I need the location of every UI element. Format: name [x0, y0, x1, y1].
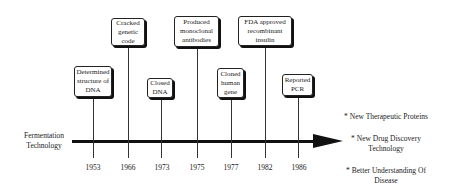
event-box-1953: Determined structure of DNA — [74, 66, 112, 97]
connector-1975 — [197, 47, 198, 158]
year-label: 1973 — [155, 163, 170, 172]
year-label: 1953 — [86, 163, 101, 172]
connector-1986 — [298, 96, 299, 158]
event-box-1982: FDA approved recombinant insulin — [238, 16, 292, 46]
outcome-therapeutic-proteins: * New Therapeutic Proteins — [344, 112, 428, 122]
connector-1977 — [231, 98, 232, 158]
timeline-axis — [72, 140, 316, 143]
event-box-1975: Produced monoclonal antibodies — [174, 16, 219, 47]
year-label: 1975 — [190, 163, 205, 172]
connector-1973 — [161, 98, 162, 158]
event-box-1986: Reported PCR — [282, 74, 313, 96]
event-box-1966: Cracked genetic code — [111, 18, 145, 46]
connector-1953 — [93, 96, 94, 158]
year-label: 1966 — [121, 163, 136, 172]
outcome-drug-discovery: * New Drug Discovery Technology — [346, 134, 426, 154]
arrow-right-icon — [313, 134, 343, 148]
connector-1982 — [265, 46, 266, 158]
year-label: 1986 — [292, 163, 307, 172]
event-box-1973: Closed DNA — [147, 78, 173, 98]
outcome-understanding-disease: * Better Understanding Of Disease — [344, 166, 428, 186]
event-box-1977: Cloned human gene — [217, 68, 244, 98]
year-label: 1977 — [224, 163, 239, 172]
connector-1966 — [128, 46, 129, 158]
start-label: Fermentation Technology — [16, 131, 72, 151]
year-label: 1982 — [258, 163, 273, 172]
